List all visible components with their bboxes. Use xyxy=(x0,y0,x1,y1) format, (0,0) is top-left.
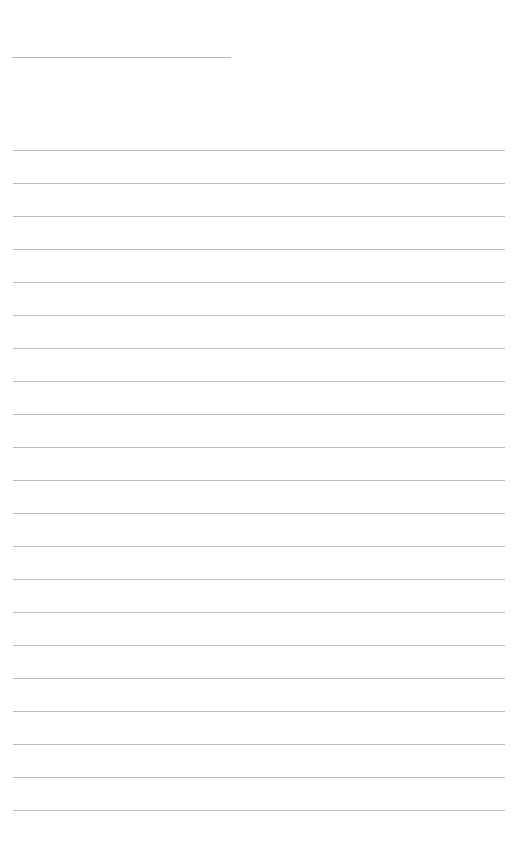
ruled-line xyxy=(13,810,505,811)
ruled-line xyxy=(13,348,505,349)
ruled-line xyxy=(13,381,505,382)
ruled-line xyxy=(13,414,505,415)
ruled-line xyxy=(13,579,505,580)
ruled-line xyxy=(13,777,505,778)
ruled-line xyxy=(13,546,505,547)
ruled-line xyxy=(13,249,505,250)
ruled-line xyxy=(13,513,505,514)
ruled-line xyxy=(13,150,505,151)
header-rule xyxy=(12,57,231,58)
ruled-line xyxy=(13,315,505,316)
ruled-line xyxy=(13,216,505,217)
ruled-line xyxy=(13,612,505,613)
ruled-line xyxy=(13,282,505,283)
ruled-line xyxy=(13,744,505,745)
ruled-line xyxy=(13,447,505,448)
ruled-line xyxy=(13,183,505,184)
ruled-line xyxy=(13,480,505,481)
ruled-line xyxy=(13,711,505,712)
ruled-line xyxy=(13,645,505,646)
ruled-line xyxy=(13,678,505,679)
